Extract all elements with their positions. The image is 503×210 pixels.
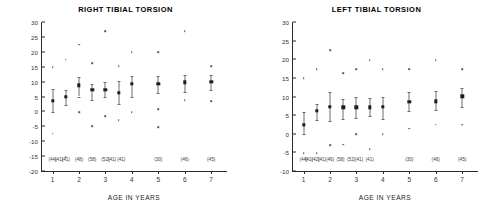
error-bar-cap	[130, 97, 133, 98]
y-axis-tick-label: 20	[282, 56, 293, 63]
data-point-outlier	[369, 148, 371, 150]
x-axis-label-right: AGE IN YEARS	[41, 194, 227, 201]
data-point-outlier	[356, 68, 358, 70]
x-axis-tick-mark	[211, 171, 212, 174]
error-bar-cap	[104, 82, 107, 83]
sample-size-label: (46)	[326, 157, 334, 162]
error-bar-cap	[51, 89, 54, 90]
error-bar-cap	[355, 118, 358, 119]
y-axis-tick-label: 25	[31, 33, 42, 40]
y-axis-tick-mark	[42, 36, 45, 37]
y-axis-tick-label: 30	[31, 19, 42, 26]
mean-marker	[408, 100, 411, 103]
data-point-outlier	[65, 59, 67, 61]
x-axis-tick-label: 2	[328, 176, 332, 183]
y-axis-tick-label: 20	[31, 48, 42, 55]
y-axis-tick-mark	[293, 59, 296, 60]
mean-marker	[104, 88, 107, 91]
x-axis-tick-mark	[304, 171, 305, 174]
sample-size-label: (45)	[207, 157, 215, 162]
data-point-outlier	[65, 156, 67, 158]
error-bar-cap	[210, 90, 213, 91]
data-point-outlier	[157, 52, 159, 54]
error-bar-cap	[78, 77, 81, 78]
mean-marker	[355, 106, 358, 109]
y-axis-tick-mark	[42, 156, 45, 157]
x-axis-tick-label: 5	[407, 176, 411, 183]
y-axis-tick-mark	[293, 96, 296, 97]
data-point-outlier	[342, 73, 344, 75]
plot-area-right: 302520151050-5-10-15-201234567(44)(41)(4…	[41, 22, 227, 172]
error-bar-cap	[183, 92, 186, 93]
data-point-outlier	[184, 99, 186, 101]
error-bar-cap	[302, 112, 305, 113]
data-point-outlier	[461, 68, 463, 70]
y-axis-tick-label: -15	[29, 153, 42, 160]
data-point-outlier	[408, 68, 410, 70]
error-bar-cap	[381, 97, 384, 98]
error-bar-cap	[130, 76, 133, 77]
mean-marker	[209, 80, 212, 83]
data-point-outlier	[316, 68, 318, 70]
mean-marker	[51, 99, 54, 102]
data-point-outlier	[303, 152, 305, 154]
y-axis-tick-label: -10	[280, 168, 293, 175]
data-point-outlier	[52, 66, 54, 68]
error-bar-cap	[408, 111, 411, 112]
data-point-outlier	[91, 63, 93, 65]
y-axis-tick-mark	[42, 111, 45, 112]
data-point-outlier	[316, 152, 318, 154]
error-bar-cap	[355, 97, 358, 98]
data-point-outlier	[461, 124, 463, 126]
error-bar-cap	[64, 90, 67, 91]
mean-marker	[130, 82, 133, 85]
data-point-outlier	[408, 128, 410, 130]
error-bar-cap	[157, 93, 160, 94]
y-axis-tick-mark	[42, 141, 45, 142]
x-axis-tick-mark	[409, 171, 410, 174]
data-point-outlier	[329, 50, 331, 52]
x-axis-tick-mark	[105, 171, 106, 174]
x-axis-tick-mark	[462, 171, 463, 174]
x-axis-tick-mark	[79, 171, 80, 174]
error-bar	[92, 84, 93, 100]
x-axis-tick-mark	[436, 171, 437, 174]
error-bar-cap	[329, 121, 332, 122]
y-axis-tick-mark	[293, 22, 296, 23]
error-bar	[131, 76, 132, 97]
error-bar-cap	[315, 120, 318, 121]
y-axis-tick-label: 10	[282, 93, 293, 100]
y-axis-tick-mark	[42, 22, 45, 23]
x-axis-tick-mark	[356, 171, 357, 174]
x-axis-tick-label: 7	[460, 176, 464, 183]
error-bar-cap	[434, 110, 437, 111]
error-bar-cap	[210, 75, 213, 76]
data-point-outlier	[105, 30, 107, 32]
data-point-outlier	[435, 124, 437, 126]
error-bar-cap	[408, 92, 411, 93]
y-axis-tick-label: 5	[35, 93, 42, 100]
data-point-outlier	[78, 44, 80, 46]
y-axis-tick-label: -5	[32, 123, 42, 130]
x-axis-tick-mark	[158, 171, 159, 174]
plot-area-left: 302520151050-5-101234567(44)(41)(42)(41)…	[292, 22, 478, 172]
y-axis-tick-mark	[293, 40, 296, 41]
y-axis-tick-mark	[293, 152, 296, 153]
error-bar-cap	[51, 112, 54, 113]
y-axis-tick-mark	[42, 51, 45, 52]
data-point-outlier	[342, 144, 344, 146]
mean-marker	[342, 106, 345, 109]
chart-title-left: LEFT TIBIAL TORSION	[251, 5, 502, 14]
data-point-outlier	[118, 119, 120, 121]
sample-size-label: (41)	[355, 157, 363, 162]
y-axis-tick-mark	[293, 115, 296, 116]
y-axis-tick-mark	[293, 171, 296, 172]
data-point-outlier	[184, 30, 186, 32]
y-axis-tick-label: 15	[282, 74, 293, 81]
x-axis-tick-label: 5	[156, 176, 160, 183]
x-axis-tick-mark	[132, 171, 133, 174]
data-point-outlier	[369, 59, 371, 61]
x-axis-tick-label: 3	[355, 176, 359, 183]
x-axis-tick-label: 7	[209, 176, 213, 183]
error-bar-cap	[78, 97, 81, 98]
